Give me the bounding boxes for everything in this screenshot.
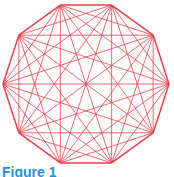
- decagon-diagonal: [3, 5, 112, 84]
- decagon-edge: [112, 133, 154, 163]
- decagon-diagonal: [112, 5, 154, 133]
- decagon-diagonal: [19, 5, 61, 133]
- decagon-edge: [19, 5, 61, 35]
- decagon-edge: [3, 35, 19, 84]
- decagon-diagonal: [112, 84, 169, 163]
- decagon-diagonal: [19, 5, 112, 35]
- decagon-edge: [153, 35, 169, 84]
- decagon-diagonal: [60, 133, 153, 163]
- figure-caption: Figure 1: [2, 164, 56, 177]
- decagon-edge: [19, 133, 61, 163]
- decagon-diagonal: [19, 35, 61, 163]
- decagon-edge: [153, 84, 169, 133]
- decagon-diagonal: [60, 5, 169, 84]
- decagon-diagram: [0, 0, 174, 177]
- decagon-diagonal: [112, 5, 169, 84]
- decagon-diagonal: [3, 35, 153, 84]
- decagon-diagonal: [60, 84, 169, 163]
- decagon-edge: [112, 5, 154, 35]
- decagon-diagonal: [19, 84, 169, 133]
- decagon-diagonal: [3, 84, 112, 163]
- decagon-diagonal: [112, 35, 154, 163]
- decagon-edge: [3, 84, 19, 133]
